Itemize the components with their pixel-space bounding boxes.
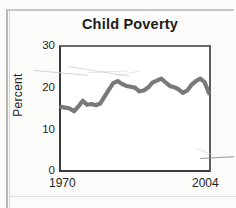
x-tick-label-end: 2004 [192,176,219,190]
y-tick-label-10: 10 [31,123,55,135]
y-tick-label-30: 30 [31,39,55,51]
chart-figure: Child Poverty Percent 30 20 10 0 1970 20… [0,0,236,208]
plot-area [59,45,211,172]
data-series-line [61,47,209,170]
y-tick-label-20: 20 [31,81,55,93]
y-axis-title: Percent [11,55,25,135]
x-tick-label-start: 1970 [49,176,76,190]
y-tick-label-0: 0 [31,164,55,176]
chart-title: Child Poverty [0,16,236,32]
